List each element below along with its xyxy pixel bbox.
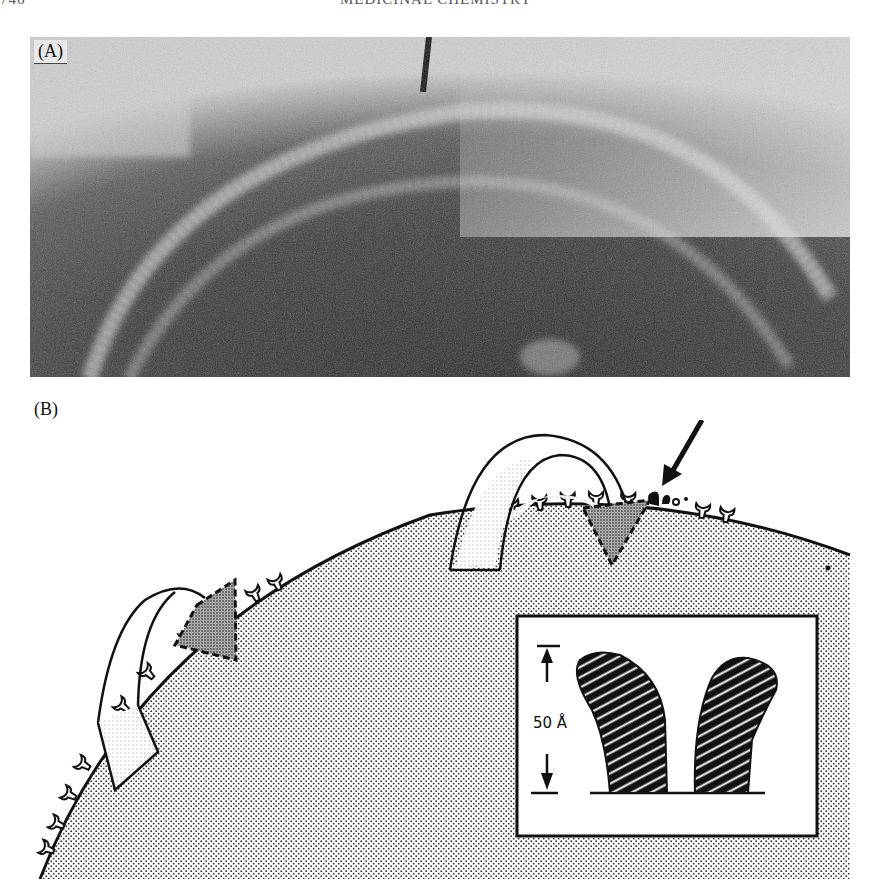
scale-label: 50 Å xyxy=(533,713,568,732)
panel-a-label: (A) xyxy=(34,40,67,64)
pointer-arrow-icon xyxy=(662,420,702,486)
highlighted-molecules xyxy=(648,492,688,506)
running-title: MEDICINAL CHEMISTRY xyxy=(0,0,872,8)
insertion-region-left xyxy=(175,580,236,660)
micrograph-panel-a xyxy=(30,37,850,377)
running-head: 746 MEDICINAL CHEMISTRY xyxy=(0,0,872,7)
schematic-panel-b: 50 Å xyxy=(0,420,872,879)
inset-enlarged-view: 50 Å xyxy=(517,616,817,836)
panel-b-label: (B) xyxy=(34,399,58,420)
micrograph-image xyxy=(30,37,850,377)
